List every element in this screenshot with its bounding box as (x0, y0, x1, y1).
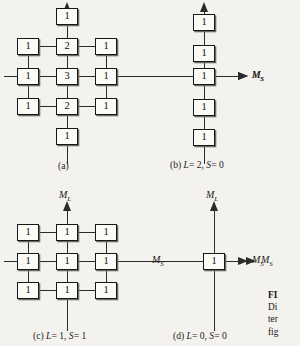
panel-b-caption-lval: = 2, (189, 159, 204, 170)
panel-a-cell: 1 (95, 98, 117, 115)
panel-b-cell: 1 (193, 99, 215, 116)
panel-d-ms-left-label-sub: S (160, 260, 164, 268)
panel-a-connector (28, 84, 29, 98)
panel-d-ms-right-label: MS (261, 254, 273, 268)
panel-a-cell: 1 (17, 38, 39, 55)
panel-b-up-arrowhead (200, 2, 208, 12)
panel-d-ml-label: ML (206, 189, 218, 203)
panel-b-right-arrowhead (238, 72, 248, 80)
panel-c-caption-sval: = 1 (74, 330, 87, 341)
panel-b-caption: (b) L= 2, S= 0 (170, 159, 224, 170)
panel-a-cell: 3 (56, 68, 78, 85)
panel-c-cell: 1 (56, 224, 78, 241)
panel-b-cell: 1 (193, 129, 215, 146)
panel-a-connector (106, 84, 107, 98)
panel-a-cell: 2 (56, 38, 78, 55)
panel-d-caption-tag: (d) (173, 330, 184, 341)
panel-c-connector (28, 269, 29, 282)
panel-a-cell: 1 (17, 98, 39, 115)
figure-canvas: 1 1 2 1 1 3 1 1 2 1 1 MS (a) 1 1 1 1 1 M… (0, 0, 300, 346)
panel-c-cell: 1 (95, 253, 117, 270)
panel-c-connector (106, 240, 107, 253)
figure-caption-line: ter (268, 313, 300, 325)
figure-caption-block: FI Di ter fig (268, 289, 300, 338)
panel-d-ml-label-sub: L (214, 195, 218, 203)
panel-a-cell: 2 (56, 98, 78, 115)
panel-c-cell: 1 (17, 282, 39, 299)
panel-c-cell: 1 (17, 253, 39, 270)
panel-b-caption-sval: = 0 (211, 159, 224, 170)
panel-a-connector (28, 54, 29, 68)
panel-a-cell: 1 (95, 38, 117, 55)
panel-a-cell: 1 (56, 128, 78, 145)
panel-d-caption: (d) L= 0, S= 0 (173, 330, 227, 341)
panel-d-ms-right-label-sub: S (269, 260, 273, 268)
panel-a-cell: 1 (56, 8, 78, 25)
panel-a-caption: (a) (58, 160, 69, 171)
panel-c-connector (106, 269, 107, 282)
panel-c-cell: 1 (56, 282, 78, 299)
figure-caption-line: fig (268, 326, 300, 338)
figure-caption-line: Di (268, 301, 300, 313)
figure-caption-line: FI (268, 289, 300, 301)
panel-c-connector (28, 240, 29, 253)
panel-c-caption-lval: = 1, (51, 330, 66, 341)
panel-c-cell: 1 (56, 253, 78, 270)
panel-a-connector (106, 54, 107, 68)
panel-a-cell: 1 (17, 68, 39, 85)
panel-a-cell: 1 (95, 68, 117, 85)
panel-b-ms-label-sub: S (260, 75, 264, 83)
panel-c-caption-tag: (c) (33, 330, 44, 341)
panel-b-ms-label: MS (252, 69, 264, 83)
panel-b-cell: 1 (193, 68, 215, 85)
panel-d-caption-lval: = 0, (192, 330, 207, 341)
panel-d-cell: 1 (203, 253, 225, 270)
panel-d-ms-left-label: MS (152, 254, 164, 268)
panel-c-cell: 1 (17, 224, 39, 241)
panel-c-caption: (c) L= 1, S= 1 (33, 330, 86, 341)
panel-c-cell: 1 (95, 282, 117, 299)
panel-b-cell: 1 (193, 45, 215, 62)
panel-c-ml-label: ML (59, 189, 71, 203)
panel-c-ml-label-sub: L (67, 195, 71, 203)
panel-c-cell: 1 (95, 224, 117, 241)
panel-d-caption-sval: = 0 (214, 330, 227, 341)
panel-b-cell: 1 (193, 14, 215, 31)
panel-b-caption-tag: (b) (170, 159, 181, 170)
